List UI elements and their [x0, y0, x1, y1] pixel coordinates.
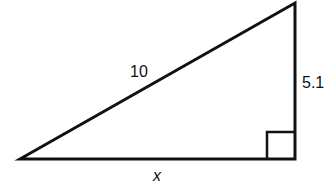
right-angle-marker	[267, 132, 295, 159]
horizontal-leg-label: x	[152, 167, 162, 184]
vertical-leg-label: 5.1	[302, 74, 324, 91]
right-triangle-diagram: 10 5.1 x	[0, 0, 336, 194]
hypotenuse-label: 10	[130, 63, 148, 80]
triangle-outline	[20, 3, 295, 159]
